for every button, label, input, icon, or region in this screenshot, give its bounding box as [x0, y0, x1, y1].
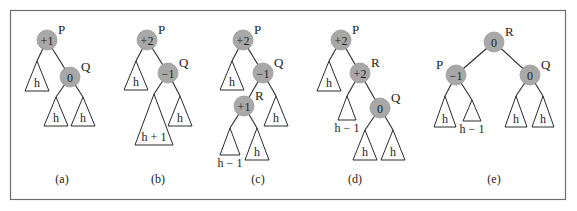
subtree-height-label: h	[362, 145, 368, 159]
balance-factor: +2	[354, 67, 367, 81]
balance-factor: −1	[162, 67, 175, 81]
balance-factor: +2	[237, 34, 250, 48]
panel-b: hh + 1h+2P−1Q(b)	[124, 22, 192, 186]
subtree-height-label: h	[540, 112, 546, 126]
node-name-label: R	[255, 88, 264, 103]
subtree-height-label: h	[34, 76, 40, 90]
avl-rotation-diagram: hhh+1P0Q(a)hh + 1h+2P−1Q(b)hhh − 1h+2P−1…	[0, 0, 577, 211]
node-name-label: Q	[391, 90, 401, 105]
balance-factor: −1	[257, 67, 270, 81]
panel-caption: (e)	[487, 172, 500, 186]
node-name-label: R	[371, 55, 380, 70]
subtree-height-label: h − 1	[460, 122, 485, 136]
subtree-height-label: h	[254, 145, 260, 159]
subtree-triangle	[220, 128, 240, 155]
subtree-triangle	[463, 100, 481, 121]
panels: hhh+1P0Q(a)hh + 1h+2P−1Q(b)hhh − 1h+2P−1…	[25, 22, 554, 186]
node-name-label: P	[436, 57, 443, 72]
subtree-height-label: h + 1	[142, 130, 167, 144]
balance-factor: +1	[238, 100, 251, 114]
balance-factor: 0	[491, 36, 497, 50]
panel-caption: (d)	[348, 172, 362, 186]
subtree-height-label: h	[442, 112, 448, 126]
subtree-height-label: h	[229, 75, 235, 89]
panel-c: hhh − 1h+2P−1Q+1R(c)	[218, 22, 288, 186]
subtree-height-label: h	[133, 75, 139, 89]
subtree-height-label: h	[273, 111, 279, 125]
subtree-height-label: h	[390, 145, 396, 159]
subtree-height-label: h − 1	[335, 121, 360, 135]
node-name-label: Q	[541, 57, 551, 72]
panel-e: hh − 1hh0R−1P0Q(e)	[434, 24, 554, 186]
node-name-label: P	[158, 22, 165, 37]
node-name-label: P	[58, 22, 65, 37]
balance-factor: 0	[67, 71, 73, 85]
node-name-label: Q	[81, 59, 91, 74]
balance-factor: +2	[335, 34, 348, 48]
node-name-label: Q	[274, 55, 284, 70]
subtree-height-label: h	[513, 112, 519, 126]
panel-caption: (a)	[55, 172, 68, 186]
subtree-triangle	[338, 96, 356, 120]
balance-factor: −1	[450, 69, 463, 83]
panel-d: hh − 1hh+2P+2R0Q(d)	[317, 22, 405, 186]
panel-caption: (c)	[251, 172, 264, 186]
balance-factor: 0	[377, 102, 383, 116]
node-name-label: R	[505, 24, 514, 39]
node-name-label: Q	[179, 55, 189, 70]
subtree-height-label: h	[80, 111, 86, 125]
node-name-label: P	[254, 22, 261, 37]
subtree-height-label: h	[326, 76, 332, 90]
subtree-height-label: h	[177, 111, 183, 125]
subtree-height-label: h	[53, 111, 59, 125]
subtree-height-label: h − 1	[218, 156, 243, 170]
balance-factor: 0	[527, 69, 533, 83]
balance-factor: +1	[41, 34, 54, 48]
panel-caption: (b)	[151, 172, 165, 186]
figure-frame	[11, 11, 566, 200]
panel-a: hhh+1P0Q(a)	[25, 22, 95, 186]
node-name-label: P	[352, 22, 359, 37]
balance-factor: +2	[141, 34, 154, 48]
